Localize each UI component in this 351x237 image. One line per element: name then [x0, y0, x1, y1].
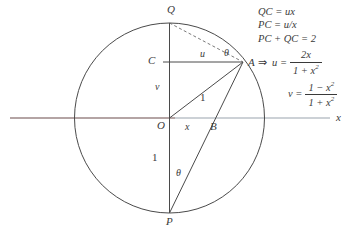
formula-u-denominator: 1 + x2 [290, 63, 322, 77]
point-label-B: B [210, 121, 217, 132]
angle-label-theta-at-a: θ [224, 48, 229, 58]
formula-line-qc: QC = ux [258, 5, 350, 18]
point-label-Q: Q [167, 4, 175, 15]
formula-v-fraction: 1 − x2 1 + x2 [305, 80, 337, 109]
formula-line-sum: PC + QC = 2 [258, 32, 350, 45]
formula-u: ⇒ u = 2x 1 + x2 [258, 48, 350, 76]
segment-label-u: u [200, 49, 205, 59]
formula-line-pc: PC = u/x [258, 18, 350, 31]
formula-u-lead: u = [272, 56, 287, 69]
angle-label-theta-at-p: θ [176, 168, 181, 178]
formula-v-numerator: 1 − x2 [305, 80, 337, 95]
formula-u-fraction: 2x 1 + x2 [290, 48, 322, 76]
segment-label-op-one: 1 [152, 152, 158, 163]
segment-label-x: x [185, 122, 189, 132]
point-label-O: O [157, 120, 165, 131]
formula-u-denominator-exponent: 2 [315, 63, 319, 71]
formula-u-numerator: 2x [290, 48, 322, 62]
formula-v-denominator-base: 1 + x [308, 96, 330, 107]
implies-icon: ⇒ [258, 55, 267, 69]
formula-v-numerator-exponent: 2 [331, 80, 335, 88]
point-label-P: P [166, 216, 173, 227]
formula-v: v = 1 − x2 1 + x2 [258, 80, 350, 109]
segment-pa [170, 62, 244, 213]
point-label-A: A [248, 57, 255, 68]
segment-oa [170, 62, 244, 118]
formula-v-lead: v = [288, 87, 302, 100]
formula-u-denominator-base: 1 + x [293, 64, 315, 75]
point-label-C: C [148, 55, 155, 66]
formula-block: QC = ux PC = u/x PC + QC = 2 ⇒ u = 2x 1 … [258, 5, 350, 109]
x-axis-label: x [336, 112, 341, 123]
formula-v-numerator-base: 1 − x [308, 81, 330, 92]
formula-v-denominator-exponent: 2 [331, 95, 335, 103]
segment-label-radius-one: 1 [200, 92, 206, 103]
segment-qa-dashed [170, 23, 244, 62]
formula-v-denominator: 1 + x2 [305, 95, 337, 109]
segment-label-v: v [155, 82, 159, 92]
